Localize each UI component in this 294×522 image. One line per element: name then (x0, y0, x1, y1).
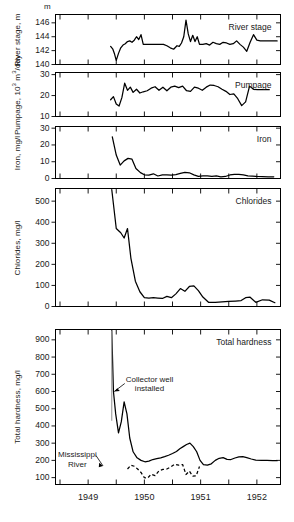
panel-frame-chlorides (56, 189, 281, 307)
xtick-label: 1949 (68, 492, 108, 502)
xtick-label: 1951 (181, 492, 221, 502)
ytick-label: 700 (22, 369, 50, 379)
panel-title-iron: Iron (0, 134, 272, 144)
river-stage-unit-label: m (44, 2, 51, 11)
collector-well-annotation: Collector wellinstalled (126, 375, 174, 393)
ytick-label: 100 (22, 472, 50, 482)
ytick-label: 200 (22, 259, 50, 269)
collector-well-line2: installed (135, 384, 164, 393)
ytick-label: 0 (22, 301, 50, 311)
ytick-label: 144 (22, 31, 50, 41)
collector-well-arrowhead (114, 388, 120, 391)
ytick-label: 500 (22, 403, 50, 413)
panel-title-total_hardness: Total hardness (0, 337, 272, 347)
ytick-label: 30 (22, 69, 50, 79)
series-chlorides (112, 190, 275, 303)
ytick-label: 400 (22, 420, 50, 430)
figure-root: 140142144146River stageRiver stage, m102… (0, 0, 294, 522)
panel-title-river_stage: River stage (0, 22, 272, 32)
mississippi-river-annotation: MississippiRiver (58, 450, 97, 468)
panel-title-pumpage: Pumpage (0, 80, 272, 90)
ytick-label: 10 (22, 111, 50, 121)
ytick-label: 400 (22, 217, 50, 227)
ytick-label: 30 (22, 123, 50, 133)
ytick-label: 100 (22, 280, 50, 290)
panel-title-chlorides: Chlorides (0, 196, 272, 206)
series-mississippi-river (128, 464, 200, 478)
mississippi-line2: River (68, 460, 87, 469)
ytick-label: 20 (22, 90, 50, 100)
ytick-label: 142 (22, 45, 50, 55)
ylabel-chlorides: Chlorides, mg/l (13, 220, 22, 275)
collector-well-line1: Collector well (126, 375, 174, 384)
series-total-hardness (112, 330, 277, 465)
ytick-label: 10 (22, 156, 50, 166)
ylabel-iron: Iron, mg/l (13, 135, 22, 169)
ytick-label: 300 (22, 238, 50, 248)
ylabel-total_hardness: Total hardness, mg/l (13, 370, 22, 444)
ytick-label: 0 (22, 173, 50, 183)
ytick-label: 300 (22, 438, 50, 448)
xtick-label: 1950 (124, 492, 164, 502)
xtick-label: 1952 (237, 492, 277, 502)
ytick-label: 800 (22, 352, 50, 362)
ytick-label: 600 (22, 386, 50, 396)
ylabel-pumpage: Pumpage, 103 m3/day (11, 54, 22, 134)
ytick-label: 140 (22, 59, 50, 69)
ytick-label: 200 (22, 455, 50, 465)
mississippi-line1: Mississippi (58, 450, 97, 459)
